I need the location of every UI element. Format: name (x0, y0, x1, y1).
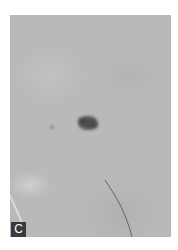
panel-label: C (11, 222, 26, 237)
small-spot (50, 125, 54, 129)
skin-texture (10, 15, 171, 237)
skin-photo (10, 15, 171, 237)
pigmented-lesion (78, 116, 98, 130)
